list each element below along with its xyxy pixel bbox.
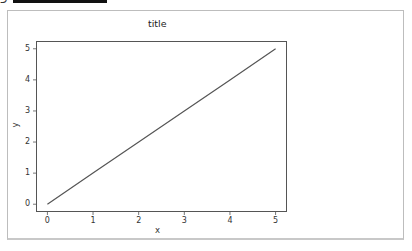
x-tick-label: 2 — [134, 216, 144, 225]
y-tick-label: 3 — [20, 106, 30, 115]
y-axis-label: y — [10, 122, 20, 127]
x-tick-label: 0 — [42, 216, 52, 225]
y-tick-label: 5 — [20, 44, 30, 53]
y-tick-label: 1 — [20, 168, 30, 177]
data-line — [47, 49, 275, 204]
y-tick-label: 2 — [20, 137, 30, 146]
x-tick-label: 5 — [271, 216, 281, 225]
y-tick-label: 4 — [20, 75, 30, 84]
y-tick-label: 0 — [20, 199, 30, 208]
x-tick-label: 3 — [179, 216, 189, 225]
x-tick-label: 1 — [88, 216, 98, 225]
x-axis-label: x — [155, 225, 160, 235]
plot-svg — [0, 0, 412, 251]
x-tick-label: 4 — [225, 216, 235, 225]
